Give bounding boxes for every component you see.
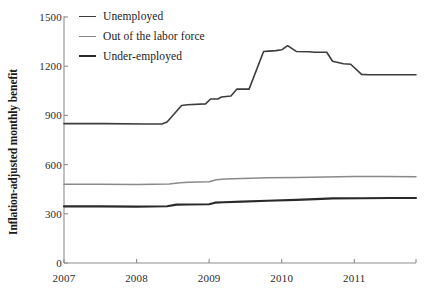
data-series-layer — [64, 46, 416, 207]
chart-legend: UnemployedOut of the labor forceUnder-em… — [79, 8, 205, 64]
legend-line-swatch — [79, 55, 96, 57]
legend-item: Out of the labor force — [79, 28, 205, 44]
legend-label: Under-employed — [103, 50, 182, 62]
legend-line-swatch — [79, 16, 96, 17]
chart-container: Inflation-adjusted monthly benefit 03006… — [0, 0, 427, 304]
plot-area — [0, 0, 427, 304]
legend-label: Unemployed — [103, 10, 163, 22]
legend-item: Under-employed — [79, 48, 205, 64]
series-line-under-employed — [64, 198, 416, 207]
series-line-out-of-the-labor-force — [64, 177, 416, 185]
legend-label: Out of the labor force — [103, 30, 205, 42]
legend-item: Unemployed — [79, 8, 205, 24]
legend-line-swatch — [79, 36, 96, 37]
